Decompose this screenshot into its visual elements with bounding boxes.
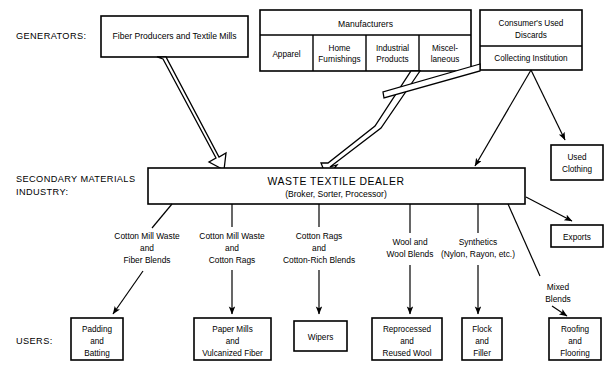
block-arrow-fiber-producers-to-dealer xyxy=(157,57,226,170)
box-wipers-label: Wipers xyxy=(308,333,333,342)
flow-1-line1: Cotton Mill Waste xyxy=(199,231,265,241)
box-padding-line1: Padding xyxy=(82,325,112,334)
flow-0-line3: Fiber Blends xyxy=(123,255,170,265)
dealer-subtitle: (Broker, Sorter, Processor) xyxy=(285,189,387,199)
flow-5-line2: Blends xyxy=(545,294,571,304)
dealer-title: WASTE TEXTILE DEALER xyxy=(268,176,405,187)
manufacturers-header: Manufacturers xyxy=(338,19,393,29)
manufacturers-col-0-line1: Apparel xyxy=(272,50,300,59)
manufacturers-col-2-line1: Industrial xyxy=(376,44,409,53)
box-used-clothing[interactable] xyxy=(551,145,603,180)
box-flock-line1: Flock xyxy=(472,325,492,334)
box-reprocessed-line1: Reprocessed xyxy=(383,325,432,334)
flow-0-line2: and xyxy=(140,243,154,253)
flow-2-line1: Cotton Rags xyxy=(296,231,343,241)
tier-label-secondary-line1: SECONDARY MATERIALS xyxy=(16,174,135,184)
flow-5-line1: Mixed xyxy=(547,282,570,292)
box-used-clothing-line1: Used xyxy=(567,153,587,162)
arrow-collecting-institution-to-used-clothing xyxy=(531,70,565,140)
consumers-sub-label: Collecting Institution xyxy=(494,54,568,63)
line-dealer-to-flow-0 xyxy=(152,204,172,228)
manufacturers-col-3-line2: laneous xyxy=(431,55,460,64)
flow-3-line1: Wool and xyxy=(392,237,428,247)
flow-4-line1: Synthetics xyxy=(459,237,498,247)
flow-0-line1: Cotton Mill Waste xyxy=(114,231,180,241)
box-paper-mills-line1: Paper Mills xyxy=(212,325,253,334)
box-roofing-line1: Roofing xyxy=(561,325,590,334)
tier-label-users: USERS: xyxy=(16,336,53,346)
tier-label-secondary-line2: INDUSTRY: xyxy=(16,187,68,197)
box-padding-line3: Batting xyxy=(84,349,110,358)
box-flock-line2: and xyxy=(475,337,489,346)
flow-2-line2: and xyxy=(312,243,326,253)
box-flock-line3: Filler xyxy=(473,349,491,358)
manufacturers-col-3-line1: Miscel- xyxy=(432,44,458,53)
consumers-header-line1: Consumer's Used xyxy=(499,19,564,28)
box-roofing-line2: and xyxy=(568,337,582,346)
consumers-header-line2: Discards xyxy=(515,31,547,40)
manufacturers-col-1-line1: Home xyxy=(329,44,351,53)
box-paper-mills-line2: and xyxy=(226,337,240,346)
line-dealer-to-flow-5 xyxy=(508,204,540,276)
manufacturers-col-1-line2: Furnishings xyxy=(318,55,360,64)
flow-4-line2: (Nylon, Rayon, etc.) xyxy=(441,249,515,259)
flow-2-line3: Cotton-Rich Blends xyxy=(283,255,355,265)
arrow-flow-5-to-roofing xyxy=(552,306,567,316)
box-reprocessed-line2: and xyxy=(400,337,414,346)
box-roofing-line3: Flooring xyxy=(560,349,590,358)
arrow-flow-0-to-padding xyxy=(113,271,143,314)
arrow-dealer-to-exports xyxy=(526,197,572,221)
box-paper-mills-line3: Vulcanized Fiber xyxy=(202,349,263,358)
box-fiber-producers-label: Fiber Producers and Textile Mills xyxy=(112,31,236,41)
box-padding-line2: and xyxy=(90,337,104,346)
diagram-canvas: GENERATORS: SECONDARY MATERIALS INDUSTRY… xyxy=(0,0,614,378)
manufacturers-col-2-line2: Products xyxy=(376,55,408,64)
box-used-clothing-line2: Clothing xyxy=(562,165,592,174)
flowchart-svg: GENERATORS: SECONDARY MATERIALS INDUSTRY… xyxy=(0,0,614,378)
box-exports-label: Exports xyxy=(563,233,591,242)
arrow-collecting-institution-to-dealer xyxy=(475,70,531,166)
flow-3-line2: Wool Blends xyxy=(387,249,434,259)
tier-label-generators: GENERATORS: xyxy=(16,31,86,41)
flow-1-line3: Cotton Rags xyxy=(209,255,256,265)
flow-1-line2: and xyxy=(225,243,239,253)
box-reprocessed-line3: Reused Wool xyxy=(382,349,431,358)
